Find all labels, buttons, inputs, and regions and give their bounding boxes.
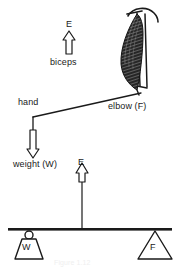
elbow-fulcrum-label: elbow (F) — [108, 102, 146, 111]
effort-label-lever: E — [78, 158, 84, 167]
effort-label-anatomy: E — [66, 20, 72, 29]
shoulder-arc-icon — [127, 8, 158, 22]
weight-block-label: W — [22, 243, 31, 252]
figure-caption: Figure 1.12 — [54, 259, 91, 266]
figure-canvas: E biceps hand elbow (F) weight (W) E W F… — [0, 0, 180, 269]
weight-load-label: weight (W) — [13, 160, 57, 169]
biceps-label: biceps — [50, 58, 77, 67]
effort-arrow-up-anatomy-icon — [63, 31, 75, 54]
hand-label: hand — [18, 98, 38, 107]
weight-arrow-down-icon — [27, 130, 39, 158]
effort-arrow-up-lever-icon — [76, 163, 88, 229]
fulcrum-triangle-label: F — [150, 243, 156, 252]
diagram-vector-layer — [0, 0, 180, 269]
lever-beam-icon — [8, 228, 172, 231]
